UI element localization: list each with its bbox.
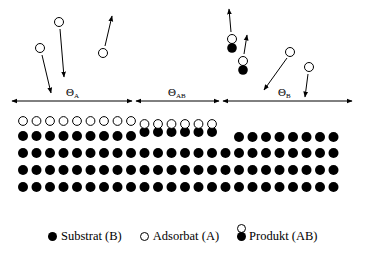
legend-product-label: Produkt (AB) <box>249 229 317 244</box>
adsorbate-atom <box>19 117 28 126</box>
adsorbate-atom <box>46 117 55 126</box>
substrate-atom <box>302 132 312 142</box>
substrate-atom <box>153 165 163 175</box>
substrate-atom <box>275 165 285 175</box>
legend-adsorbate-label: Adsorbat (A) <box>153 229 219 244</box>
substrate-atom <box>32 131 42 141</box>
substrate-atom <box>126 148 136 158</box>
legend-adsorbate: Adsorbat (A) <box>140 229 219 244</box>
substrate-atom <box>86 165 96 175</box>
adsorbate-atom <box>73 117 82 126</box>
substrate-atom <box>288 165 298 175</box>
substrate-atom <box>113 131 123 141</box>
substrate-atom <box>329 132 339 142</box>
substrate-atom <box>59 182 69 192</box>
substrate-atom <box>315 165 325 175</box>
legend-product: Produkt (AB) <box>237 229 317 244</box>
substrate-atom <box>288 148 298 158</box>
adsorbate-atom <box>59 117 68 126</box>
arrow-down-icon <box>305 74 308 97</box>
gas-phase-particles <box>36 9 314 97</box>
product-adsorbate-atom <box>140 120 149 129</box>
substrate-atom <box>72 182 82 192</box>
substrate-atom <box>288 182 298 192</box>
substrate-atom <box>18 131 28 141</box>
substrate-atom <box>261 165 271 175</box>
substrate-atom <box>86 182 96 192</box>
substrate-atom <box>167 182 177 192</box>
adsorbate-incoming-4 <box>305 63 314 72</box>
substrate-atom <box>221 182 231 192</box>
substrate-atom <box>180 165 190 175</box>
substrate-atom <box>86 131 96 141</box>
substrate-atom <box>32 165 42 175</box>
product-leaving-2-a <box>239 57 248 66</box>
adsorbate-incoming-2 <box>55 18 64 27</box>
substrate-atom <box>167 165 177 175</box>
substrate-atom <box>234 148 244 158</box>
legend-substrate: Substrat (B) <box>48 229 122 244</box>
substrate-atom <box>59 148 69 158</box>
substrate-atom <box>45 182 55 192</box>
substrate-atom <box>248 182 258 192</box>
adsorbate-incoming-1 <box>36 44 45 53</box>
substrate-atom <box>261 182 271 192</box>
substrate-atom <box>18 182 28 192</box>
substrate-atom <box>275 132 285 142</box>
substrate-atom <box>261 148 271 158</box>
substrate-atom <box>113 165 123 175</box>
substrate-atom <box>234 182 244 192</box>
substrate-atom <box>329 165 339 175</box>
substrate-atom <box>180 182 190 192</box>
substrate-atom <box>302 148 312 158</box>
substrate-atom <box>18 148 28 158</box>
arrow-up-icon <box>105 16 112 46</box>
substrate-atom <box>126 165 136 175</box>
substrate-atom <box>288 132 298 142</box>
product-adsorbate-atom <box>194 120 203 129</box>
substrate-atom <box>45 148 55 158</box>
substrate-atom <box>45 131 55 141</box>
adsorbate-desorbing <box>99 49 108 58</box>
product-leaving-1-a <box>228 35 237 44</box>
substrate-atom <box>99 131 109 141</box>
theta-a-label: ΘA <box>66 86 79 100</box>
substrate-atom <box>99 165 109 175</box>
arrow-down-icon <box>42 55 51 93</box>
substrate-atom <box>113 148 123 158</box>
substrate-atom <box>153 182 163 192</box>
substrate-atom <box>86 148 96 158</box>
product-leaving-1-b <box>227 43 237 53</box>
substrate-atom <box>59 165 69 175</box>
substrate-atom <box>248 132 258 142</box>
legend: Substrat (B) Adsorbat (A) Produkt (AB) <box>48 229 335 244</box>
legend-substrate-label: Substrat (B) <box>61 229 122 244</box>
substrate-atom <box>45 165 55 175</box>
adsorbate-atom <box>127 117 136 126</box>
substrate-atom <box>207 148 217 158</box>
substrate-atom <box>72 131 82 141</box>
substrate-atom <box>207 182 217 192</box>
substrate-atom <box>234 132 244 142</box>
adsorbate-atom <box>32 117 41 126</box>
arrow-up-icon <box>244 35 247 54</box>
surface-reaction-diagram <box>0 0 368 260</box>
adsorbate-atom <box>113 117 122 126</box>
filled-circle-icon <box>48 232 57 241</box>
product-leaving-2-b <box>238 65 248 75</box>
substrate-atom <box>207 165 217 175</box>
theta-ab-label: ΘAB <box>168 86 186 100</box>
adsorbate-atom <box>86 117 95 126</box>
substrate-atom <box>32 182 42 192</box>
substrate-atom <box>140 148 150 158</box>
substrate-atom <box>315 148 325 158</box>
substrate-atom <box>194 165 204 175</box>
product-adsorbate-atom <box>167 120 176 129</box>
substrate-atom <box>315 182 325 192</box>
substrate-atom <box>248 148 258 158</box>
substrate-atom <box>221 165 231 175</box>
substrate-atom <box>315 132 325 142</box>
substrate-atom <box>126 182 136 192</box>
substrate-atom <box>59 131 69 141</box>
adsorbate-incoming-3 <box>286 48 295 57</box>
